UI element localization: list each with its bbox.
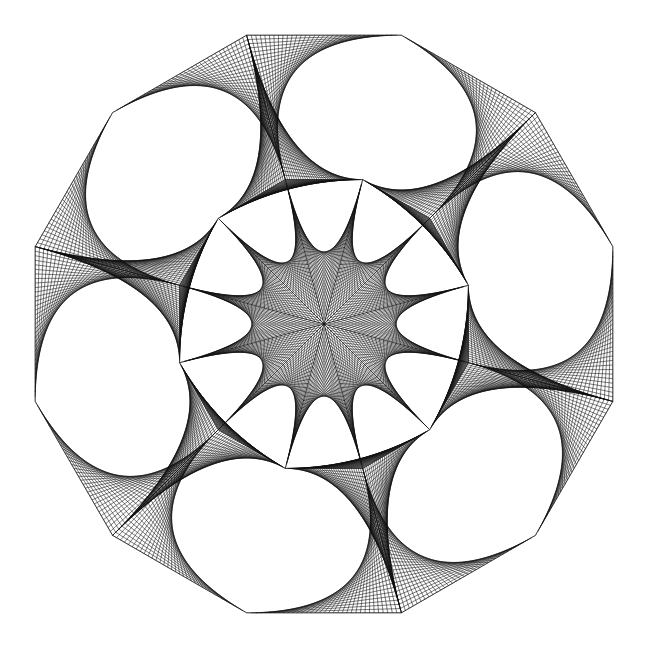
string-art-figure [0, 0, 647, 647]
string-art-path [35, 35, 613, 613]
string-art-svg [0, 0, 647, 647]
envelope-lines [35, 35, 613, 613]
